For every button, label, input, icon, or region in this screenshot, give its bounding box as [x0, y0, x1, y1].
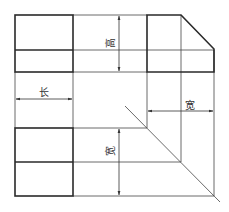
- side-view: [147, 15, 214, 72]
- front-view: [15, 15, 73, 72]
- top-view: [15, 128, 73, 196]
- length-label: 长: [39, 87, 49, 98]
- height-label: 高: [104, 38, 116, 48]
- width-label-side: 宽: [185, 99, 195, 111]
- miter-line: [125, 106, 220, 202]
- three-view-diagram: 高 长 宽 宽: [0, 0, 229, 212]
- diagram-svg: 高 长 宽 宽: [0, 0, 229, 212]
- width-label-top: 宽: [104, 146, 116, 156]
